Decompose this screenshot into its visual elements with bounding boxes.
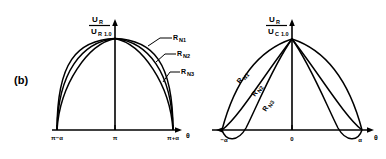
panel-label: (b)	[14, 74, 28, 86]
left-curve-label-rn3-text: R	[181, 68, 186, 75]
left-curve-label-rn2-text: R	[177, 50, 182, 57]
left-xtick-label-1: π	[113, 135, 118, 141]
figure-panel-b: (b) U R U R 1.0 π−α π π+α θ	[0, 0, 386, 159]
left-ordinate-numerator-sub: R	[99, 19, 103, 25]
right-x-axis-symbol: θ	[374, 134, 378, 141]
left-curve-label-rn1-text: R	[173, 34, 178, 41]
left-curve-label-rn3: R N3	[181, 68, 194, 77]
right-chart: U R U C 1.0 −α 0 α θ R N1 R N2 R N3	[212, 15, 378, 143]
right-y-axis-arrow	[289, 19, 295, 26]
right-xtick-label-2: α	[358, 137, 362, 143]
left-curve-label-rn1-sub: N1	[179, 37, 186, 43]
left-ordinate-denominator: U	[91, 27, 97, 36]
right-ordinate-label: U R U C 1.0	[266, 15, 289, 37]
right-curve-label-rn1-sub: N1	[241, 72, 250, 81]
right-ordinate-denominator: U	[268, 27, 274, 36]
right-curve-label-rn3: R N3	[261, 98, 276, 114]
left-peak-value: 1.0	[104, 31, 112, 37]
left-curve-label-rn3-sub: N3	[187, 71, 194, 77]
right-x-axis-arrow	[367, 127, 374, 132]
left-xtick-label-2: π+α	[167, 135, 179, 141]
left-curve-label-rn2: R N2	[177, 50, 190, 59]
right-peak-value: 1.0	[281, 31, 289, 37]
left-curve-label-rn2-sub: N2	[183, 53, 190, 59]
left-x-axis-arrow	[175, 127, 182, 132]
left-curve-label-rn1: R N1	[173, 34, 186, 43]
right-curve-label-rn3-sub: N3	[267, 99, 276, 108]
left-xtick-label-0: π−α	[51, 135, 63, 141]
right-xtick-label-0: −α	[220, 137, 228, 143]
left-leader-rn1	[148, 38, 172, 46]
left-x-axis-symbol: θ	[186, 132, 190, 139]
left-ordinate-numerator: U	[92, 15, 98, 24]
right-ordinate-numerator: U	[269, 15, 275, 24]
left-y-axis-arrow	[112, 19, 118, 26]
left-chart: U R U R 1.0 π−α π π+α θ R N1 R N2 R N3	[51, 15, 194, 141]
right-curve-label-rn2: R N2	[250, 83, 265, 99]
right-xtick-label-1: 0	[290, 136, 294, 142]
right-ordinate-numerator-sub: R	[276, 19, 280, 25]
left-ordinate-label: U R U R 1.0	[89, 15, 112, 37]
right-ordinate-denominator-sub: C	[275, 31, 279, 37]
left-ordinate-denominator-sub: R	[98, 31, 102, 37]
